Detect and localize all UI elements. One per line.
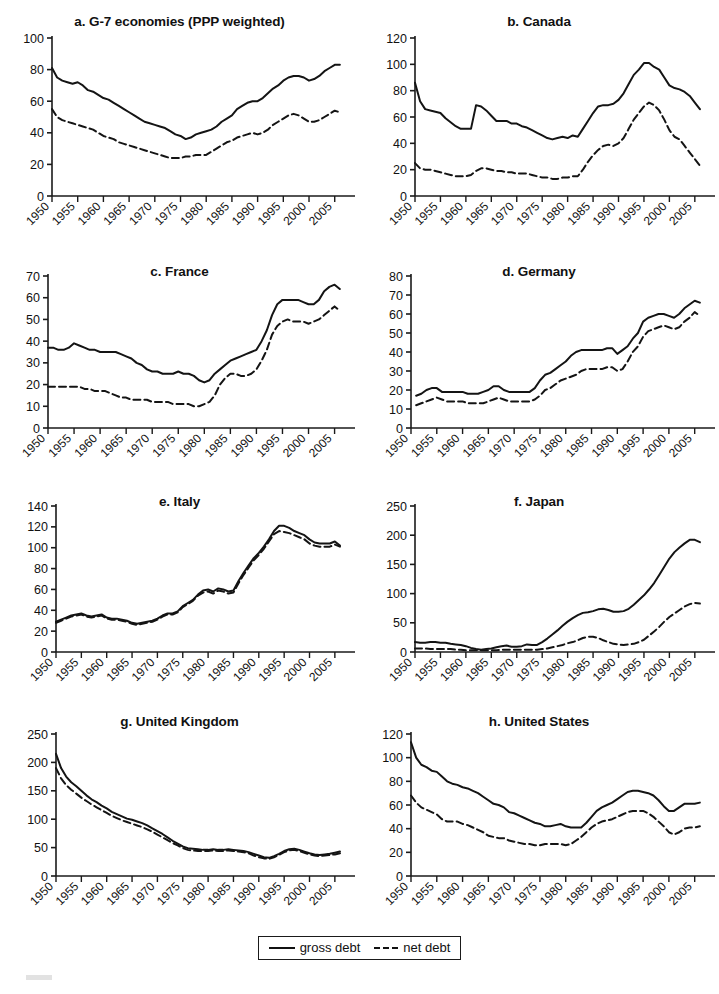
svg-text:1990: 1990 <box>589 879 618 908</box>
svg-text:2000: 2000 <box>640 431 669 460</box>
svg-text:50: 50 <box>26 313 40 327</box>
svg-text:2005: 2005 <box>666 431 695 460</box>
svg-text:50: 50 <box>34 841 48 855</box>
svg-text:1965: 1965 <box>460 431 489 460</box>
svg-text:1975: 1975 <box>154 879 183 908</box>
svg-text:40: 40 <box>393 137 407 151</box>
svg-text:1995: 1995 <box>255 879 284 908</box>
svg-text:1950: 1950 <box>382 879 411 908</box>
svg-text:1970: 1970 <box>124 431 153 460</box>
plot-france: 0102030405060701950195519601965197019751… <box>0 250 359 480</box>
svg-text:1955: 1955 <box>49 199 78 228</box>
svg-text:40: 40 <box>30 126 44 140</box>
svg-text:1950: 1950 <box>27 879 56 908</box>
svg-text:1980: 1980 <box>176 431 205 460</box>
svg-text:1960: 1960 <box>71 431 100 460</box>
panel-united-states: h. United States 02040608010012019501955… <box>359 700 719 930</box>
svg-text:1980: 1980 <box>537 879 566 908</box>
svg-text:20: 20 <box>26 378 40 392</box>
svg-text:1955: 1955 <box>408 879 437 908</box>
svg-text:150: 150 <box>386 558 407 572</box>
svg-text:1995: 1995 <box>615 199 644 228</box>
dashed-line-icon <box>374 947 398 949</box>
svg-text:80: 80 <box>389 270 403 284</box>
svg-text:30: 30 <box>26 356 40 370</box>
svg-text:2005: 2005 <box>666 879 695 908</box>
svg-text:20: 20 <box>389 846 403 860</box>
svg-text:1995: 1995 <box>255 199 284 228</box>
svg-text:1955: 1955 <box>408 431 437 460</box>
svg-text:100: 100 <box>27 541 48 555</box>
svg-text:1950: 1950 <box>23 199 52 228</box>
svg-text:120: 120 <box>386 32 407 46</box>
svg-text:100: 100 <box>23 32 44 46</box>
svg-text:1965: 1965 <box>460 879 489 908</box>
panel-canada: b. Canada 020406080100120195019551960196… <box>359 0 719 250</box>
svg-text:1975: 1975 <box>514 199 543 228</box>
svg-text:2000: 2000 <box>281 655 310 684</box>
legend-box: gross debt net debt <box>258 936 462 960</box>
svg-text:1975: 1975 <box>511 879 540 908</box>
svg-text:1990: 1990 <box>590 199 619 228</box>
svg-text:1970: 1970 <box>129 655 158 684</box>
svg-text:1980: 1980 <box>179 879 208 908</box>
panel-italy: e. Italy 0204060801001201401950195519601… <box>0 480 359 700</box>
svg-text:1975: 1975 <box>152 199 181 228</box>
svg-text:1985: 1985 <box>564 199 593 228</box>
svg-text:1950: 1950 <box>19 431 48 460</box>
svg-text:1985: 1985 <box>563 879 592 908</box>
svg-text:40: 40 <box>389 822 403 836</box>
svg-text:1960: 1960 <box>434 879 463 908</box>
svg-text:1965: 1965 <box>463 199 492 228</box>
svg-text:40: 40 <box>389 346 403 360</box>
svg-text:1955: 1955 <box>53 879 82 908</box>
svg-text:1975: 1975 <box>150 431 179 460</box>
svg-text:60: 60 <box>393 111 407 125</box>
svg-text:70: 70 <box>26 270 40 284</box>
svg-text:1970: 1970 <box>488 199 517 228</box>
svg-text:2005: 2005 <box>306 199 335 228</box>
legend: gross debt net debt <box>0 936 719 960</box>
svg-text:120: 120 <box>27 520 48 534</box>
svg-text:1985: 1985 <box>202 431 231 460</box>
plot-italy: 0204060801001201401950195519601965197019… <box>0 480 359 700</box>
svg-text:1965: 1965 <box>97 431 126 460</box>
svg-text:1980: 1980 <box>537 431 566 460</box>
svg-text:100: 100 <box>386 587 407 601</box>
svg-text:70: 70 <box>389 289 403 303</box>
svg-text:250: 250 <box>27 728 48 742</box>
plot-g7: 0204060801001950195519601965197019751980… <box>0 0 359 250</box>
solid-line-icon <box>269 947 295 949</box>
svg-text:10: 10 <box>389 403 403 417</box>
svg-text:2005: 2005 <box>666 199 695 228</box>
svg-text:1990: 1990 <box>228 431 257 460</box>
svg-text:60: 60 <box>30 95 44 109</box>
svg-text:20: 20 <box>34 625 48 639</box>
svg-text:2000: 2000 <box>281 879 310 908</box>
svg-text:1960: 1960 <box>437 655 466 684</box>
svg-text:40: 40 <box>34 604 48 618</box>
svg-text:1995: 1995 <box>615 655 644 684</box>
svg-text:2000: 2000 <box>280 431 309 460</box>
svg-text:1965: 1965 <box>103 655 132 684</box>
svg-text:100: 100 <box>27 813 48 827</box>
svg-text:1995: 1995 <box>254 431 283 460</box>
svg-text:2005: 2005 <box>306 879 335 908</box>
svg-text:1980: 1980 <box>179 655 208 684</box>
svg-text:1955: 1955 <box>45 431 74 460</box>
svg-text:1960: 1960 <box>434 431 463 460</box>
svg-text:1985: 1985 <box>563 431 592 460</box>
panel-g7: a. G-7 economies (PPP weighted) 02040608… <box>0 0 359 250</box>
svg-text:1970: 1970 <box>485 431 514 460</box>
svg-text:2000: 2000 <box>280 199 309 228</box>
svg-text:1990: 1990 <box>590 655 619 684</box>
svg-text:1995: 1995 <box>614 431 643 460</box>
svg-text:1995: 1995 <box>614 879 643 908</box>
svg-text:1975: 1975 <box>514 655 543 684</box>
plot-germany: 0102030405060708019501955196019651970197… <box>359 250 719 480</box>
svg-text:80: 80 <box>30 63 44 77</box>
svg-text:1960: 1960 <box>75 199 104 228</box>
debt-figure: a. G-7 economies (PPP weighted) 02040608… <box>0 0 719 994</box>
legend-label-net-debt: net debt <box>403 940 450 955</box>
svg-text:1985: 1985 <box>205 655 234 684</box>
